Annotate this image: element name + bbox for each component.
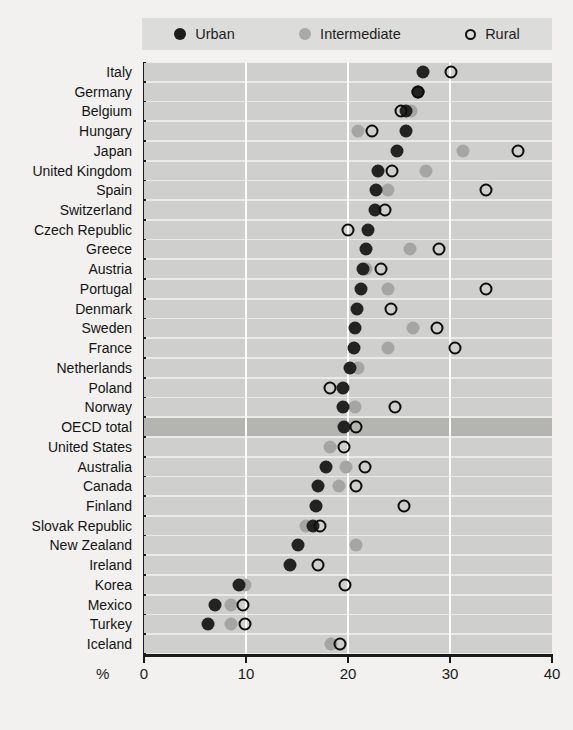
data-point-rural <box>445 65 458 78</box>
axis-unit-label: % <box>96 665 109 682</box>
x-axis-tick-label: 0 <box>140 665 148 682</box>
data-point-rural <box>430 322 443 335</box>
data-point-rural <box>350 421 363 434</box>
category-label: Finland <box>0 499 138 513</box>
data-point-intermediate <box>419 164 432 177</box>
data-point-intermediate <box>224 598 237 611</box>
category-label: Switzerland <box>0 203 138 217</box>
category-label: Norway <box>0 400 138 414</box>
data-point-intermediate <box>332 480 345 493</box>
data-point-rural <box>350 480 363 493</box>
category-label: New Zealand <box>0 538 138 552</box>
legend-item-intermediate: Intermediate <box>299 26 401 42</box>
category-label: Germany <box>0 85 138 99</box>
data-point-intermediate <box>349 401 362 414</box>
x-axis-tick <box>449 654 451 663</box>
category-label: Slovak Republic <box>0 519 138 533</box>
open-circle-icon <box>465 29 476 40</box>
x-axis-tick <box>143 654 145 663</box>
data-point-rural <box>374 263 387 276</box>
x-axis-tick-label: 30 <box>442 665 459 682</box>
data-point-intermediate <box>457 144 470 157</box>
data-point-rural <box>333 638 346 651</box>
legend-label-urban: Urban <box>195 26 235 42</box>
data-point-intermediate <box>224 618 237 631</box>
data-point-intermediate <box>350 539 363 552</box>
category-label: Canada <box>0 479 138 493</box>
category-label: Netherlands <box>0 361 138 375</box>
data-point-rural <box>384 302 397 315</box>
category-label: OECD total <box>0 420 138 434</box>
category-label: United States <box>0 440 138 454</box>
data-point-urban <box>348 342 361 355</box>
data-point-urban <box>355 282 368 295</box>
data-point-urban <box>349 322 362 335</box>
data-point-urban <box>292 539 305 552</box>
gridline <box>449 62 451 654</box>
x-axis-tick-label: 40 <box>544 665 561 682</box>
category-label: Japan <box>0 144 138 158</box>
gridline <box>347 62 349 654</box>
data-point-urban <box>369 184 382 197</box>
data-point-rural <box>359 460 372 473</box>
x-axis-tick-label: 20 <box>340 665 357 682</box>
data-point-urban <box>209 598 222 611</box>
x-axis-tick <box>551 654 553 663</box>
category-label: Spain <box>0 183 138 197</box>
data-point-rural <box>479 184 492 197</box>
data-point-urban <box>319 460 332 473</box>
data-point-intermediate <box>381 282 394 295</box>
data-point-rural <box>314 519 327 532</box>
category-label: United Kingdom <box>0 164 138 178</box>
data-point-urban <box>202 618 215 631</box>
category-label: France <box>0 341 138 355</box>
data-point-rural <box>236 598 249 611</box>
data-point-intermediate <box>352 125 365 138</box>
category-label: Korea <box>0 578 138 592</box>
data-point-rural <box>338 578 351 591</box>
data-point-intermediate <box>404 243 417 256</box>
data-point-urban <box>336 381 349 394</box>
data-point-urban <box>344 361 357 374</box>
category-label: Ireland <box>0 558 138 572</box>
category-label: Australia <box>0 460 138 474</box>
category-label: Czech Republic <box>0 223 138 237</box>
category-label: Turkey <box>0 617 138 631</box>
data-point-intermediate <box>339 460 352 473</box>
legend-label-rural: Rural <box>485 26 520 42</box>
x-axis-tick <box>347 654 349 663</box>
data-point-urban <box>336 401 349 414</box>
chart-legend: Urban Intermediate Rural <box>142 18 552 50</box>
category-label: Hungary <box>0 124 138 138</box>
data-point-urban <box>417 65 430 78</box>
filled-dark-circle-icon <box>174 28 186 40</box>
category-label: Italy <box>0 65 138 79</box>
data-point-urban <box>371 164 384 177</box>
filled-grey-circle-icon <box>299 28 311 40</box>
category-label: Austria <box>0 262 138 276</box>
data-point-rural <box>366 125 379 138</box>
data-point-urban <box>232 578 245 591</box>
data-point-rural <box>512 144 525 157</box>
data-point-rural <box>479 282 492 295</box>
data-point-rural <box>337 440 350 453</box>
category-label: Belgium <box>0 104 138 118</box>
data-point-urban <box>360 243 373 256</box>
gridline <box>245 62 247 654</box>
data-point-urban <box>312 480 325 493</box>
data-point-urban <box>362 223 375 236</box>
data-point-urban <box>337 421 350 434</box>
x-axis-tick <box>245 654 247 663</box>
x-axis-tick-label: 10 <box>238 665 255 682</box>
data-point-rural <box>342 223 355 236</box>
data-point-rural <box>323 381 336 394</box>
data-point-urban <box>400 125 413 138</box>
data-point-rural <box>412 85 425 98</box>
data-point-intermediate <box>323 440 336 453</box>
data-point-rural <box>388 401 401 414</box>
data-point-rural <box>432 243 445 256</box>
chart-page: Regional employment rate gap by region t… <box>0 0 573 730</box>
data-point-urban <box>283 559 296 572</box>
data-point-rural <box>449 342 462 355</box>
category-label: Mexico <box>0 598 138 612</box>
